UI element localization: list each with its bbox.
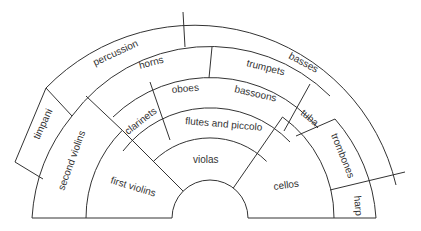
label-trombones: trombones [329, 132, 357, 180]
label-violas: violas [193, 154, 219, 165]
timpani-bottom-edge [15, 162, 43, 179]
label-bassoons: bassoons [234, 83, 278, 103]
label-harp: harp [352, 195, 365, 216]
label-trumpets: trumpets [246, 57, 286, 77]
section-labels: percussion basses horns trumpets oboes b… [31, 37, 365, 216]
label-oboes: oboes [171, 82, 199, 95]
label-horns: horns [138, 54, 165, 71]
label-cellos: cellos [273, 178, 300, 192]
label-timpani: timpani [31, 107, 55, 141]
label-basses: basses [287, 50, 320, 75]
label-clarinets: clarinets [122, 105, 158, 137]
label-tuba: tuba [299, 107, 321, 128]
orchestra-seating-diagram: percussion basses horns trumpets oboes b… [0, 0, 421, 231]
label-first-violins: first violins [109, 174, 157, 198]
divider-oboes-bassoons [209, 47, 212, 78]
divider-percussion-basses [183, 12, 185, 47]
first-violins-arc [86, 130, 122, 218]
podium-arc [172, 180, 248, 218]
cellos-arc [283, 117, 335, 218]
label-percussion: percussion [91, 37, 139, 67]
diagram-lines [15, 12, 405, 218]
label-flutes-and-piccolo: flutes and piccolo [185, 115, 263, 133]
label-second-violins: second violins [56, 129, 88, 192]
